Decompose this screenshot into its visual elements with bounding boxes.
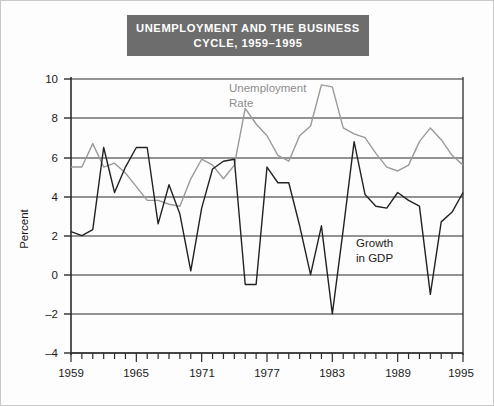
y-tick-label-minus4: –4 [45,347,58,359]
chart-plot: 10 8 6 4 2 0 –2 –4 Percent 1959 1965 197… [1,1,494,406]
x-tick-label-1983: 1983 [319,367,345,379]
y-tick-marks [64,79,71,353]
x-tick-marks [71,353,463,362]
y-tick-label-2: 2 [52,230,58,242]
y-tick-label-4: 4 [52,191,59,203]
gdp-growth-label-line-1: Growth [356,237,393,249]
x-tick-label-1965: 1965 [123,367,149,379]
gdp-growth-label-line-2: in GDP [356,252,393,264]
chart-figure: UNEMPLOYMENT AND THE BUSINESS CYCLE, 195… [0,0,494,406]
x-tick-label-1989: 1989 [385,367,411,379]
x-tick-label-1971: 1971 [189,367,215,379]
unemployment-rate-label-line-1: Unemployment [229,82,307,94]
x-tick-labels: 1959 1965 1971 1977 1983 1989 1995 [58,367,474,379]
x-tick-label-1959: 1959 [58,367,84,379]
gridlines [71,79,463,353]
y-tick-label-6: 6 [52,152,58,164]
y-axis-title: Percent [18,208,30,248]
y-tick-label-0: 0 [52,269,58,281]
y-tick-label-8: 8 [52,112,58,124]
unemployment-rate-label-line-2: Rate [229,97,253,109]
y-tick-labels: 10 8 6 4 2 0 –2 –4 [45,73,58,359]
x-tick-label-1995: 1995 [448,367,474,379]
x-tick-label-1977: 1977 [254,367,280,379]
unemployment-rate-line [71,85,463,206]
y-tick-label-10: 10 [45,73,58,85]
y-tick-label-minus2: –2 [45,308,58,320]
